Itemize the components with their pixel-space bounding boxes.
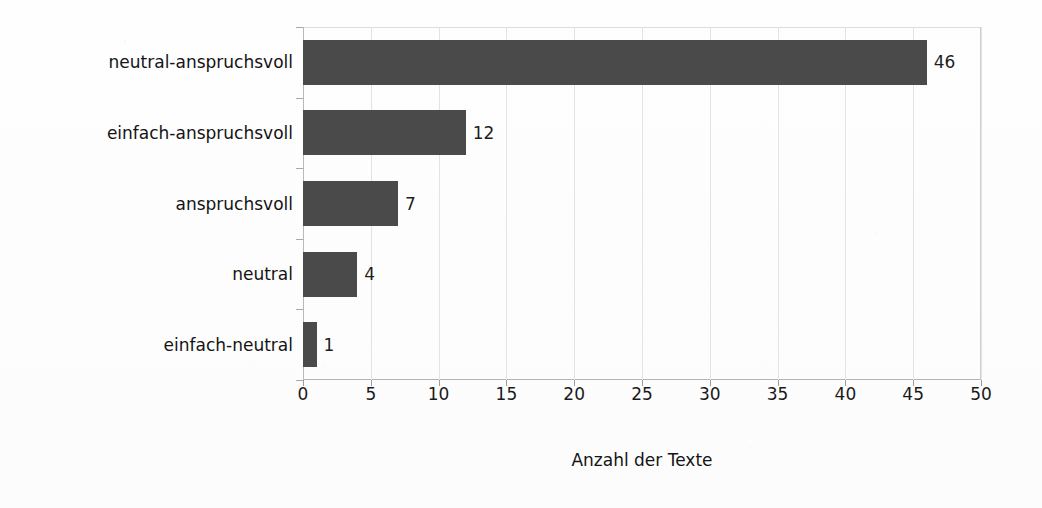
category-label: einfach-neutral xyxy=(0,337,293,354)
x-tick-label: 5 xyxy=(351,386,391,403)
y-tick-mark xyxy=(296,98,303,99)
x-tick-label: 45 xyxy=(893,386,933,403)
x-axis-title: Anzahl der Texte xyxy=(303,452,981,469)
bar-value-label: 4 xyxy=(364,266,375,283)
y-tick-mark xyxy=(296,380,303,381)
bar xyxy=(303,110,466,155)
x-tick-label: 40 xyxy=(825,386,865,403)
y-tick-mark xyxy=(296,309,303,310)
x-tick-label: 10 xyxy=(419,386,459,403)
x-tick-label: 50 xyxy=(961,386,1001,403)
category-label: neutral xyxy=(0,266,293,283)
y-tick-mark xyxy=(296,168,303,169)
y-tick-mark xyxy=(296,239,303,240)
y-tick-mark xyxy=(296,27,303,28)
bar xyxy=(303,40,927,85)
bar-value-label: 7 xyxy=(405,196,416,213)
x-tick-label: 25 xyxy=(622,386,662,403)
bar xyxy=(303,252,357,297)
category-label: neutral-anspruchsvoll xyxy=(0,54,293,71)
category-label: anspruchsvoll xyxy=(0,196,293,213)
x-tick-label: 15 xyxy=(486,386,526,403)
bar xyxy=(303,181,398,226)
x-tick-label: 35 xyxy=(758,386,798,403)
x-tick-label: 20 xyxy=(554,386,594,403)
bar-value-label: 46 xyxy=(934,54,956,71)
bar-chart: 4612741 neutral-anspruchsvolleinfach-ans… xyxy=(0,0,1042,508)
gridline-x-50 xyxy=(981,27,982,380)
bar-value-label: 1 xyxy=(324,337,335,354)
bar xyxy=(303,322,317,367)
x-tick-label: 0 xyxy=(283,386,323,403)
x-tick-label: 30 xyxy=(690,386,730,403)
category-label: einfach-anspruchsvoll xyxy=(0,125,293,142)
bar-value-label: 12 xyxy=(473,125,495,142)
